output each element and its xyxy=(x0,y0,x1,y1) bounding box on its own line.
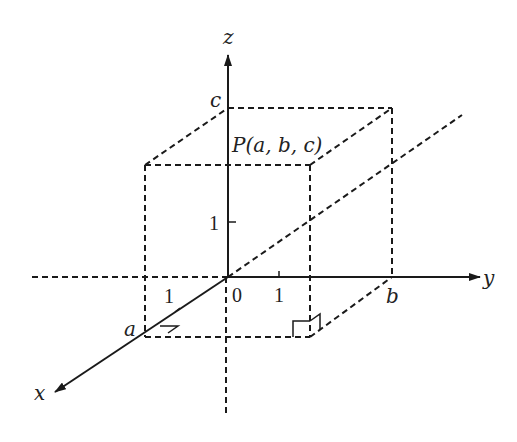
z-unit-label: 1 xyxy=(209,212,219,234)
y-unit-label: 1 xyxy=(274,284,284,306)
x-unit-label: 1 xyxy=(164,285,174,307)
box-top-left-edge xyxy=(145,108,228,165)
right-angle-marker-b xyxy=(293,314,320,337)
right-angle-marker-a xyxy=(160,326,178,333)
coordinate-diagram: z y x c b a P(a, b, c) 0 1 1 1 xyxy=(0,0,517,442)
z-axis-label: z xyxy=(222,25,234,49)
box-bottom-right-edge xyxy=(310,277,392,337)
origin-label: 0 xyxy=(232,284,242,306)
x-axis xyxy=(55,277,228,392)
x-axis-label: x xyxy=(34,381,45,405)
y-axis-label: y xyxy=(482,266,495,290)
b-label: b xyxy=(386,284,399,308)
point-p-label: P(a, b, c) xyxy=(231,133,322,157)
c-label: c xyxy=(210,88,221,112)
a-label: a xyxy=(124,317,136,341)
